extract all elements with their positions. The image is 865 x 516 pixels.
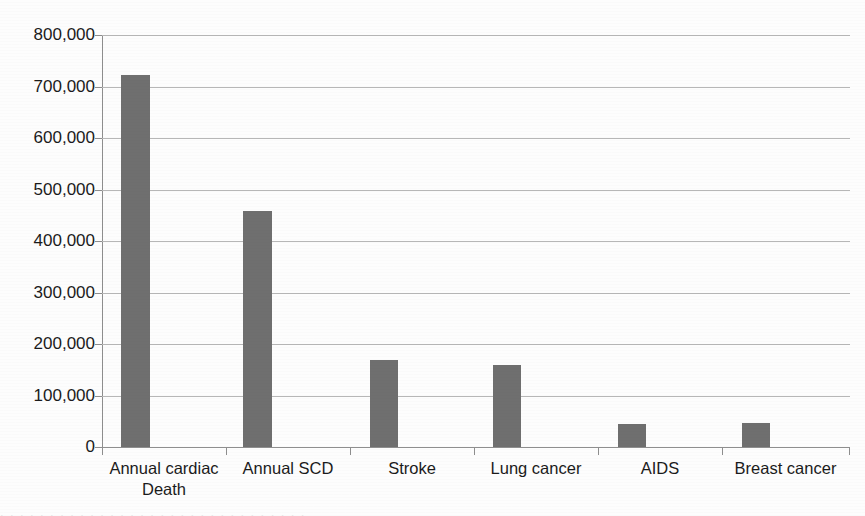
bar-stroke[interactable] (370, 360, 398, 447)
y-axis-tick-label: 500,000 (9, 180, 95, 200)
gridline (102, 87, 850, 88)
cropped-caption-text: . . . . . . . . . . . . . . . . . . . . … (0, 505, 865, 516)
y-axis-tick (95, 35, 102, 36)
x-axis-label-breast-cancer: Breast cancer (722, 458, 849, 479)
gridline (102, 344, 850, 345)
y-axis-tick-label: 100,000 (9, 386, 95, 406)
bar-annual-scd[interactable] (243, 211, 272, 447)
x-axis-tick (350, 447, 351, 455)
gridline (102, 190, 850, 191)
bar-aids[interactable] (618, 424, 646, 447)
chart-page: 800,000 700,000 600,000 500,000 400,000 … (0, 0, 865, 516)
gridline (102, 293, 850, 294)
gridline (102, 138, 850, 139)
x-axis-tick (102, 447, 103, 455)
y-axis-labels: 800,000 700,000 600,000 500,000 400,000 … (0, 0, 95, 516)
x-axis-tick (849, 447, 850, 455)
x-axis-label-aids: AIDS (598, 458, 722, 479)
gridline (102, 241, 850, 242)
bar-breast-cancer[interactable] (742, 423, 770, 447)
gridline (102, 35, 850, 36)
y-axis-tick (95, 241, 102, 242)
x-axis-tick (598, 447, 599, 455)
y-axis-tick-label: 200,000 (9, 334, 95, 354)
x-axis-tick (722, 447, 723, 455)
y-axis-tick (95, 344, 102, 345)
bar-lung-cancer[interactable] (493, 365, 521, 447)
y-axis-tick (95, 190, 102, 191)
plot-area (102, 35, 850, 447)
gridline-baseline (102, 447, 850, 448)
x-axis-label-stroke: Stroke (350, 458, 474, 479)
y-axis-tick (95, 138, 102, 139)
gridline (102, 396, 850, 397)
y-axis-tick-label: 0 (9, 437, 95, 457)
bar-annual-cardiac-death[interactable] (121, 75, 150, 447)
y-axis-tick (95, 447, 102, 448)
y-axis-tick-label: 600,000 (9, 128, 95, 148)
bar-chart: 800,000 700,000 600,000 500,000 400,000 … (0, 0, 865, 516)
y-axis-tick (95, 87, 102, 88)
y-axis-tick-label: 800,000 (9, 25, 95, 45)
x-axis-label-lung-cancer: Lung cancer (474, 458, 598, 479)
y-axis-tick-label: 700,000 (9, 77, 95, 97)
x-axis-label-annual-scd: Annual SCD (226, 458, 350, 479)
y-axis-tick (95, 396, 102, 397)
x-axis-label-annual-cardiac-death: Annual cardiac Death (102, 458, 226, 500)
x-axis-tick (226, 447, 227, 455)
x-axis-tick (474, 447, 475, 455)
y-axis-tick-label: 400,000 (9, 231, 95, 251)
y-axis-tick (95, 293, 102, 294)
y-axis-tick-label: 300,000 (9, 283, 95, 303)
